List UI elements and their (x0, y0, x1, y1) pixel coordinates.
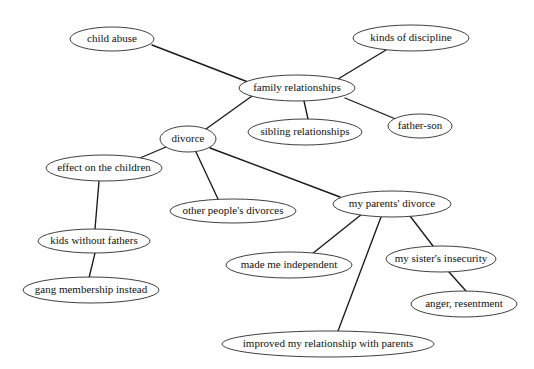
node-label-father_son: father-son (398, 119, 443, 131)
node-label-effect_children: effect on the children (57, 161, 151, 173)
node-label-improved_rel: improved my relationship with parents (243, 337, 413, 349)
edge-family_rel-to-divorce (206, 96, 252, 129)
node-made_independent[interactable]: made me independent (226, 252, 352, 278)
node-label-kinds_discipline: kinds of discipline (370, 31, 451, 43)
node-label-gang_membership: gang membership instead (35, 283, 148, 295)
node-effect_children[interactable]: effect on the children (46, 155, 162, 181)
node-father_son[interactable]: father-son (388, 114, 452, 138)
edge-family_rel-to-father_son (345, 98, 398, 120)
node-other_divorces[interactable]: other people's divorces (170, 199, 296, 223)
node-label-divorce: divorce (172, 132, 205, 144)
edge-divorce-to-effect_children (140, 147, 166, 158)
edge-sister_insecurity-to-anger_resentment (449, 272, 466, 291)
edge-family_rel-to-sibling_rel (304, 101, 308, 119)
node-label-made_independent: made me independent (241, 258, 338, 270)
node-divorce[interactable]: divorce (160, 126, 216, 152)
node-kinds_discipline[interactable]: kinds of discipline (353, 25, 469, 51)
node-family_rel[interactable]: family relationships (239, 75, 355, 101)
node-anger_resentment[interactable]: anger, resentment (411, 291, 517, 317)
node-sibling_rel[interactable]: sibling relationships (248, 119, 362, 145)
node-layer: child abusekinds of disciplinefamily rel… (23, 25, 517, 357)
node-label-sister_insecurity: my sister's insecurity (395, 252, 488, 264)
edge-my_parents_divorce-to-sister_insecurity (410, 216, 433, 246)
node-label-my_parents_divorce: my parents' divorce (349, 197, 435, 209)
node-sister_insecurity[interactable]: my sister's insecurity (386, 246, 496, 272)
node-label-other_divorces: other people's divorces (183, 204, 284, 216)
node-label-family_rel: family relationships (253, 81, 341, 93)
concept-map-svg: child abusekinds of disciplinefamily rel… (0, 0, 534, 369)
node-label-sibling_rel: sibling relationships (261, 125, 350, 137)
node-label-kids_no_fathers: kids without fathers (50, 234, 137, 246)
concept-map-canvas: child abusekinds of disciplinefamily rel… (0, 0, 534, 369)
node-my_parents_divorce[interactable]: my parents' divorce (333, 191, 451, 217)
edge-my_parents_divorce-to-made_independent (312, 214, 362, 254)
edge-effect_children-to-kids_no_fathers (95, 181, 99, 229)
edge-divorce-to-my_parents_divorce (210, 148, 340, 197)
node-gang_membership[interactable]: gang membership instead (23, 277, 159, 303)
edge-divorce-to-other_divorces (196, 152, 218, 199)
edge-kinds_discipline-to-family_rel (338, 50, 386, 79)
edge-child_abuse-to-family_rel (152, 45, 248, 82)
node-kids_no_fathers[interactable]: kids without fathers (38, 229, 150, 253)
edge-kids_no_fathers-to-gang_membership (89, 253, 95, 278)
node-label-anger_resentment: anger, resentment (425, 297, 503, 309)
node-child_abuse[interactable]: child abuse (70, 27, 154, 51)
node-improved_rel[interactable]: improved my relationship with parents (222, 331, 434, 357)
edge-my_parents_divorce-to-improved_rel (338, 217, 381, 331)
node-label-child_abuse: child abuse (87, 32, 137, 44)
